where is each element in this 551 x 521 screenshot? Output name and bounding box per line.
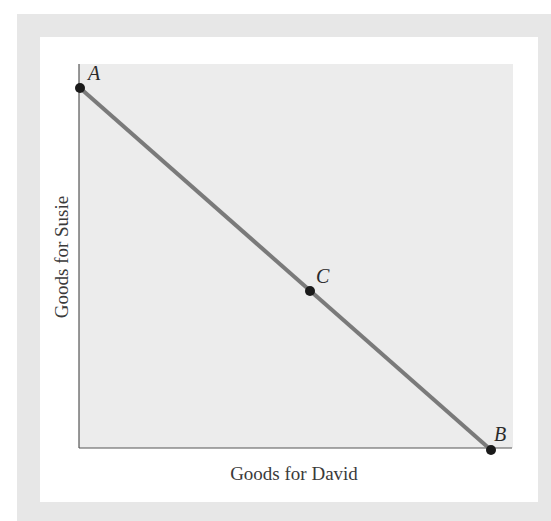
point-a-marker (75, 83, 85, 93)
point-c-label: C (316, 265, 330, 287)
plot-area (79, 64, 513, 448)
point-b-marker (486, 445, 496, 455)
y-axis-label: Goods for Susie (51, 196, 72, 318)
x-axis-label: Goods for David (230, 463, 358, 484)
ppf-chart: A C B Goods for David Goods for Susie (0, 0, 551, 521)
point-a-label: A (86, 62, 101, 84)
point-b-label: B (494, 423, 506, 445)
point-c-marker (305, 286, 315, 296)
